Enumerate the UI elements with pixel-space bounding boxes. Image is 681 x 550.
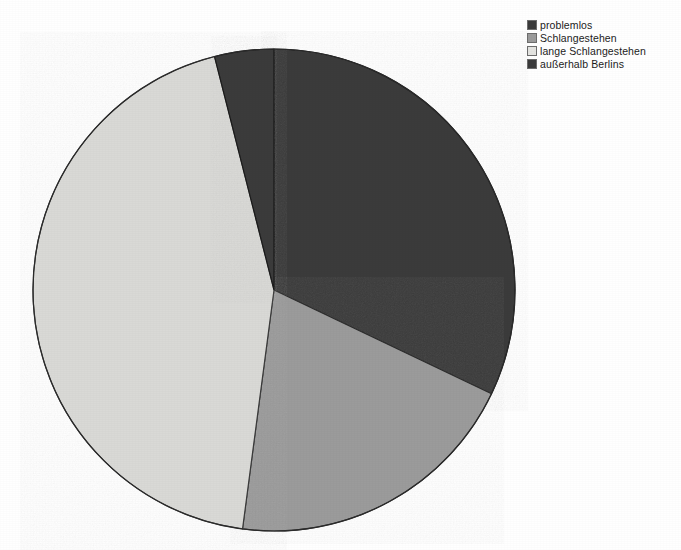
pie-slices-group (33, 49, 515, 531)
pie-chart-figure: problemlos Schlangestehen lange Schlange… (0, 0, 681, 550)
legend-item-label: außerhalb Berlins (540, 58, 624, 70)
legend-item-ausserhalb-berlins[interactable]: außerhalb Berlins (527, 57, 675, 70)
legend-item-label: Schlangestehen (540, 32, 617, 44)
legend-swatch-icon (527, 46, 537, 56)
legend-swatch-icon (527, 20, 537, 30)
legend-swatch-icon (527, 33, 537, 43)
legend-item-problemlos[interactable]: problemlos (527, 18, 675, 31)
legend-item-schlangestehen[interactable]: Schlangestehen (527, 31, 675, 44)
pie-chart-svg (0, 0, 681, 550)
chart-legend: problemlos Schlangestehen lange Schlange… (527, 18, 675, 70)
legend-item-label: lange Schlangestehen (540, 45, 646, 57)
legend-swatch-icon (527, 59, 537, 69)
legend-item-label: problemlos (540, 19, 592, 31)
legend-item-lange-schlangestehen[interactable]: lange Schlangestehen (527, 44, 675, 57)
